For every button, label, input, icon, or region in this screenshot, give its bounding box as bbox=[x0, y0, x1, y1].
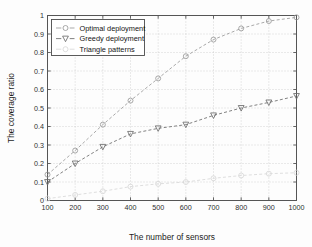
y-tick-label: 1 bbox=[40, 11, 44, 20]
x-tick-label: 800 bbox=[235, 203, 247, 212]
y-tick-label: 0.5 bbox=[34, 104, 44, 113]
y-tick-label: 0.7 bbox=[34, 67, 44, 76]
y-tick-label: 0.4 bbox=[34, 122, 44, 131]
chart-legend: Optimal deploymentGreedy deploymentTrian… bbox=[52, 20, 146, 56]
legend-item-label: Triangle patterns bbox=[80, 45, 135, 54]
x-axis-title: The number of sensors bbox=[129, 232, 215, 242]
y-tick-label: 0.9 bbox=[34, 30, 44, 39]
y-axis-title: The coverage ratio bbox=[6, 73, 16, 143]
coverage-ratio-line-chart: 1002003004005006007008009001000 00.10.20… bbox=[0, 0, 312, 247]
legend-item-label: Greedy deployment bbox=[80, 34, 145, 43]
legend-item-label: Optimal deployment bbox=[80, 24, 146, 33]
x-tick-label: 200 bbox=[69, 203, 81, 212]
x-tick-label: 300 bbox=[97, 203, 109, 212]
x-tick-label: 700 bbox=[208, 203, 220, 212]
chart-figure: 1002003004005006007008009001000 00.10.20… bbox=[0, 0, 312, 247]
x-tick-label: 600 bbox=[180, 203, 192, 212]
y-tick-label: 0.2 bbox=[34, 159, 44, 168]
x-tick-label: 900 bbox=[263, 203, 275, 212]
x-tick-label: 500 bbox=[152, 203, 164, 212]
y-tick-label: 0 bbox=[40, 196, 44, 205]
x-tick-label: 1000 bbox=[289, 203, 305, 212]
x-tick-label: 400 bbox=[125, 203, 137, 212]
y-tick-label: 0.8 bbox=[34, 48, 44, 57]
y-tick-label: 0.1 bbox=[34, 178, 44, 187]
y-tick-label: 0.3 bbox=[34, 141, 44, 150]
y-tick-label: 0.6 bbox=[34, 85, 44, 94]
